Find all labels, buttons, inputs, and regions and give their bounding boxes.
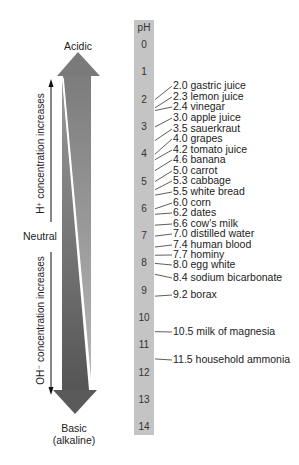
connector-line xyxy=(155,171,172,182)
connector-line xyxy=(155,274,172,278)
connector-line xyxy=(155,203,172,209)
substance-connectors xyxy=(0,0,299,465)
connector-line xyxy=(155,263,172,265)
connector-line xyxy=(155,192,172,195)
connector-line xyxy=(155,234,172,236)
substance-label: 8.0 egg white xyxy=(173,259,235,270)
connector-line xyxy=(155,86,172,100)
connector-line xyxy=(155,359,172,360)
connector-line xyxy=(155,224,172,225)
substance-label: 9.2 borax xyxy=(173,289,217,300)
connector-line xyxy=(155,139,172,154)
connector-line xyxy=(155,160,172,171)
ph-scale-diagram: Acidic Basic (alkaline) Neutral H⁺ conce… xyxy=(0,0,299,465)
substance-label: 8.4 sodium bicarbonate xyxy=(173,272,282,283)
connector-line xyxy=(155,245,172,247)
connector-line xyxy=(155,295,172,296)
connector-line xyxy=(155,97,172,108)
substance-label: 11.5 household ammonia xyxy=(173,354,290,365)
connector-line xyxy=(155,181,172,190)
connector-line xyxy=(155,213,172,214)
connector-line xyxy=(155,129,172,141)
connector-line xyxy=(155,107,172,111)
connector-line xyxy=(155,118,172,127)
substance-label: 10.5 milk of magnesia xyxy=(173,326,275,337)
